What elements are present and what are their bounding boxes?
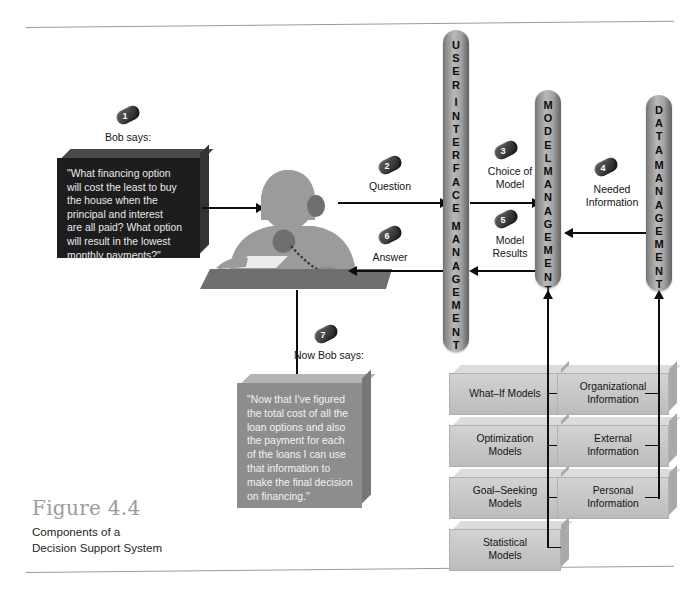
pillar-2-char: A xyxy=(544,178,552,191)
pillar-1-char: E xyxy=(452,312,459,325)
data-box-personal-top xyxy=(561,469,681,477)
step-badge-2-number: 2 xyxy=(375,159,399,173)
arrow-needed-information xyxy=(573,232,649,234)
pillar-3-char: M xyxy=(654,238,663,251)
step-badge-1-number: 1 xyxy=(113,109,137,123)
pillar-1-char: T xyxy=(453,123,460,136)
pillar-1-char: I xyxy=(454,96,457,109)
step-badge-4: 4 xyxy=(592,155,620,178)
pillar-2-char: N xyxy=(544,271,552,284)
data-box-personal-side xyxy=(669,465,677,515)
model-tick-statistical xyxy=(547,547,561,548)
final-quote-box-side-face xyxy=(362,370,371,504)
pillar-2-char: M xyxy=(543,99,552,112)
label-now-bob-says: Now Bob says: xyxy=(294,349,388,362)
step-badge-6-number: 6 xyxy=(375,229,399,243)
model-bus-line xyxy=(547,299,549,547)
pillar-3-char: A xyxy=(655,199,663,212)
label-question: Question xyxy=(352,180,428,193)
label-bob-says: Bob says: xyxy=(84,131,172,144)
pillar-1-char: U xyxy=(452,39,460,52)
step-badge-7-number: 7 xyxy=(311,328,335,342)
final-quote-text: "Now that I've figured the total cost of… xyxy=(247,393,354,503)
pillar-1-char: S xyxy=(452,52,459,65)
label-needed-information: Needed Information xyxy=(572,183,652,208)
pillar-1-char: N xyxy=(452,246,460,259)
pillar-3-char: G xyxy=(655,212,664,225)
pillar-1-char: N xyxy=(452,326,460,339)
arrow-choice-of-model xyxy=(470,202,534,204)
model-box-statistical-side xyxy=(561,517,569,567)
model-box-optimization-top xyxy=(453,417,573,425)
model-box-what-if-face: What–If Models xyxy=(449,373,561,415)
pillar-1-char: N xyxy=(452,110,460,123)
pillar-1-char: A xyxy=(452,233,460,246)
model-box-goal-seeking-top xyxy=(453,469,573,477)
top-divider-rule xyxy=(26,21,674,28)
step-badge-5-number: 5 xyxy=(491,213,515,227)
model-box-goal-seeking: Goal–Seeking Models xyxy=(449,477,561,519)
pillar-3-char: A xyxy=(655,117,663,130)
pillar-1-char: A xyxy=(452,176,460,189)
final-quote-box: "Now that I've figured the total cost of… xyxy=(237,383,362,508)
model-box-goal-seeking-label: Goal–Seeking Models xyxy=(473,485,538,510)
data-box-organizational-top xyxy=(561,365,681,373)
data-tick-organizational xyxy=(645,393,659,394)
pillar-2-char: M xyxy=(543,244,552,257)
data-box-organizational-label: Organizational Information xyxy=(580,381,646,406)
model-box-what-if-label: What–If Models xyxy=(469,388,541,401)
label-answer: Answer xyxy=(352,251,428,264)
step-badge-3: 3 xyxy=(492,138,520,161)
data-box-external-top xyxy=(561,417,681,425)
initial-quote-box-top-face xyxy=(62,149,214,158)
pillar-2-char: M xyxy=(543,165,552,178)
pillar-1-char: E xyxy=(452,286,459,299)
pillar-3-char: A xyxy=(655,144,663,157)
model-box-optimization-face: Optimization Models xyxy=(449,425,561,467)
arrow-answer-head xyxy=(348,266,357,276)
pillar-3-char: M xyxy=(654,159,663,172)
data-box-external-label: External Information xyxy=(587,433,639,458)
pillar-1-char: R xyxy=(452,149,460,162)
step-badge-7: 7 xyxy=(312,322,340,345)
pillar-1-char: C xyxy=(452,189,460,202)
pillar-2-char: E xyxy=(544,231,551,244)
pillar-3-char: N xyxy=(655,265,663,278)
arrow-to-final-quote xyxy=(296,290,298,380)
pillar-2-char: E xyxy=(544,139,551,152)
step-badge-1: 1 xyxy=(114,103,142,126)
data-tick-personal xyxy=(645,497,659,498)
pillar-user-interface-management: U S E R I N T E R F A C E M A N A G E M … xyxy=(443,30,469,352)
pillar-3-char: T xyxy=(656,130,663,143)
step-badge-4-number: 4 xyxy=(591,161,615,175)
arrow-needed-information-head xyxy=(564,228,573,238)
pillar-3-char: D xyxy=(655,104,663,117)
figure-caption: Components of a Decision Support System xyxy=(32,524,162,556)
pillar-1-char: E xyxy=(452,202,459,215)
model-box-statistical-face: Statistical Models xyxy=(449,529,561,571)
pillar-1-char: E xyxy=(452,65,459,78)
model-box-what-if: What–If Models xyxy=(449,373,561,415)
pillar-1-char: R xyxy=(452,79,460,92)
pillar-1-char: G xyxy=(452,273,461,286)
pillar-2-char: O xyxy=(544,112,553,125)
pillar-3-char: E xyxy=(655,225,662,238)
pillar-3-char: A xyxy=(655,172,663,185)
pillar-1-char: F xyxy=(453,162,460,175)
arrow-model-results xyxy=(478,270,536,272)
model-box-optimization: Optimization Models xyxy=(449,425,561,467)
final-quote-box-top-face xyxy=(242,374,376,383)
figure-number: Figure 4.4 xyxy=(32,496,141,520)
model-bus-arrow-head xyxy=(543,290,553,299)
model-box-goal-seeking-face: Goal–Seeking Models xyxy=(449,477,561,519)
data-box-external-side xyxy=(669,413,677,463)
data-box-organizational-side xyxy=(669,361,677,411)
pillar-1-char: M xyxy=(451,220,460,233)
arrow-model-results-head xyxy=(469,266,478,276)
pillar-1-char: A xyxy=(452,260,460,273)
pillar-3-char: N xyxy=(655,185,663,198)
pillar-2-char: N xyxy=(544,191,552,204)
pillar-1-char: E xyxy=(452,136,459,149)
data-box-personal-label: Personal Information xyxy=(587,485,639,510)
pillar-data-management: D A T A M A N A G E M E N T xyxy=(646,95,672,291)
